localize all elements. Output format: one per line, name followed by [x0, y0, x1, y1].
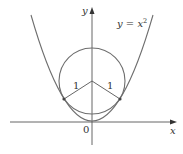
diagram-canvas: 1 1 0 x y y = x2 — [0, 0, 183, 154]
y-axis-label: y — [81, 5, 88, 16]
x-axis-label: x — [170, 125, 176, 136]
radius-right — [92, 81, 120, 99]
radius-label-left: 1 — [73, 80, 79, 91]
curve-label-exponent: 2 — [143, 17, 147, 25]
curve-label: y = x2 — [116, 17, 147, 29]
curve-label-base: y = x — [116, 18, 143, 29]
radius-label-right: 1 — [107, 80, 113, 91]
tangent-point-right — [118, 97, 121, 100]
parabola-circle-figure: 1 1 0 x y y = x2 — [0, 0, 183, 154]
origin-label: 0 — [83, 124, 89, 135]
y-axis-arrow-icon — [90, 7, 95, 14]
x-axis-arrow-icon — [170, 120, 177, 125]
tangent-point-left — [62, 97, 65, 100]
